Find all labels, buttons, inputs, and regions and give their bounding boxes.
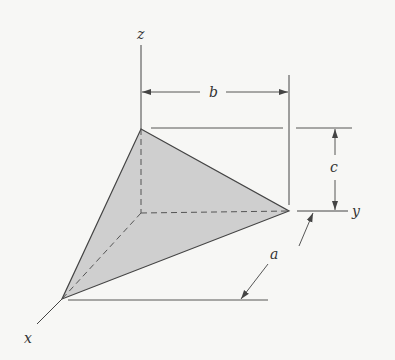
z-axis-label: z <box>136 26 145 42</box>
tetrahedron-diagram: b c a z y x <box>0 0 395 360</box>
a-dim-down <box>241 264 268 299</box>
shaded-face <box>62 129 289 299</box>
a-label: a <box>270 246 278 262</box>
y-axis-label: y <box>351 203 361 219</box>
x-axis-label: x <box>24 330 32 346</box>
c-label: c <box>330 159 338 175</box>
x-axis <box>37 299 62 324</box>
b-label: b <box>209 84 218 100</box>
a-dim-up <box>299 213 313 246</box>
